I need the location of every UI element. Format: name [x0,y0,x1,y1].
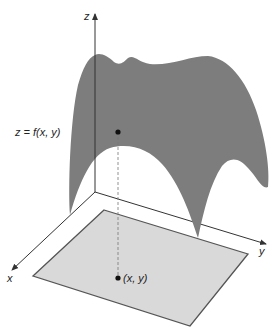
point-label: (x, y) [123,272,148,284]
surface-label: z = f(x, y) [14,126,61,138]
surface-diagram: z x y z = f(x, y) (x, y) [0,0,272,334]
x-axis-label: x [6,272,13,284]
domain-plane [33,210,248,326]
domain-point [115,275,120,280]
z-axis-label: z [83,10,90,22]
surface-point [115,129,120,134]
surface [69,54,268,238]
y-axis-label: y [258,245,266,257]
